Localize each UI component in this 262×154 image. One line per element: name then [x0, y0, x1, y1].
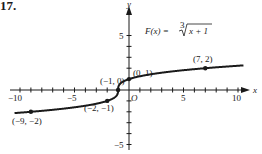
y-tick-label-neg5: −5: [114, 140, 124, 150]
function-formula: F(x) = 3 x + 1: [144, 20, 212, 36]
formula-radicand: x + 1: [188, 26, 208, 36]
x-tick-label-neg5: −5: [67, 93, 77, 103]
x-tick-label-5: 5: [181, 93, 186, 103]
svg-text:F(x) =: F(x) =: [144, 26, 169, 36]
x-tick-label-neg10: −10: [8, 93, 23, 103]
x-axis-label: x: [252, 85, 257, 95]
data-point-marker: [203, 66, 207, 70]
data-point-marker: [116, 88, 120, 92]
y-tick-label-5: 5: [119, 31, 124, 41]
formula-root-index: 3: [180, 20, 185, 30]
point-label-neg9-neg2: (−9, −2): [12, 116, 42, 126]
point-label-neg2-neg1: (−2, −1): [84, 103, 114, 113]
x-axis-arrow-icon: [241, 87, 250, 93]
formula-lhs: F(x) =: [144, 26, 169, 36]
x-tick-label-10: 10: [232, 93, 242, 103]
y-axis-label: y: [126, 0, 131, 9]
point-label-0-1: (0, 1): [133, 68, 153, 78]
data-point-marker: [127, 77, 131, 81]
point-label-neg1-0: (−1, 0): [100, 76, 125, 86]
point-label-7-2: (7, 2): [193, 54, 213, 64]
function-graph: x y O −10 −5 5 10 5 −5 F(x) = 3 x + 1 (−…: [0, 0, 262, 154]
data-point-marker: [29, 110, 33, 114]
origin-label: O: [131, 93, 138, 103]
